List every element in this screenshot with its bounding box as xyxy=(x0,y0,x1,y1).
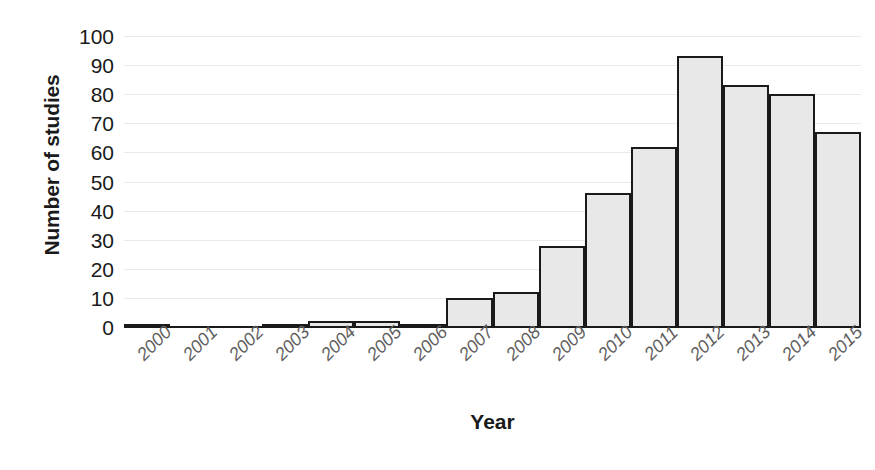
bar[interactable] xyxy=(446,298,492,327)
bar-slot xyxy=(446,36,492,327)
bar[interactable] xyxy=(631,147,677,327)
bar-slot xyxy=(769,36,815,327)
x-slot: 2003 xyxy=(262,330,308,400)
bar-slot xyxy=(631,36,677,327)
y-tick-label: 20 xyxy=(58,258,114,279)
x-slot: 2014 xyxy=(769,330,815,400)
x-slot: 2010 xyxy=(585,330,631,400)
x-slot: 2005 xyxy=(354,330,400,400)
y-tick-label: 80 xyxy=(58,84,114,105)
bar-slot xyxy=(723,36,769,327)
y-tick-label: 70 xyxy=(58,113,114,134)
y-tick-label: 60 xyxy=(58,142,114,163)
y-tick-label: 40 xyxy=(58,200,114,221)
y-tick-label: 100 xyxy=(58,26,114,47)
x-slot: 2002 xyxy=(216,330,262,400)
x-axis-tick-labels: 2000200120022003200420052006200720082009… xyxy=(124,330,861,400)
bar-slot xyxy=(262,36,308,327)
bar[interactable] xyxy=(723,85,769,327)
bar-slot xyxy=(400,36,446,327)
bar-slot xyxy=(815,36,861,327)
bar[interactable] xyxy=(539,246,585,327)
x-slot: 2013 xyxy=(723,330,769,400)
bar-slot xyxy=(216,36,262,327)
x-slot: 2008 xyxy=(493,330,539,400)
x-slot: 2015 xyxy=(815,330,861,400)
bar-series xyxy=(124,36,861,327)
bar[interactable] xyxy=(815,132,861,327)
bar[interactable] xyxy=(493,292,539,327)
bar[interactable] xyxy=(585,193,631,327)
bar-slot xyxy=(539,36,585,327)
x-tick-label: 2015 xyxy=(824,322,867,365)
x-slot: 2006 xyxy=(400,330,446,400)
bar-slot xyxy=(124,36,170,327)
x-slot: 2004 xyxy=(308,330,354,400)
bar-slot xyxy=(308,36,354,327)
y-tick-label: 90 xyxy=(58,55,114,76)
y-tick-label: 0 xyxy=(58,317,114,338)
y-tick-label: 10 xyxy=(58,287,114,308)
x-axis-title: Year xyxy=(124,410,861,434)
x-slot: 2007 xyxy=(446,330,492,400)
x-slot: 2000 xyxy=(124,330,170,400)
y-tick-label: 50 xyxy=(58,171,114,192)
x-slot: 2001 xyxy=(170,330,216,400)
bar[interactable] xyxy=(677,56,723,327)
plot-area xyxy=(124,36,861,327)
x-slot: 2009 xyxy=(539,330,585,400)
y-axis-tick-labels: 0102030405060708090100 xyxy=(58,24,114,339)
bar-chart: Number of studies 0102030405060708090100… xyxy=(0,0,875,470)
bar-slot xyxy=(585,36,631,327)
x-axis-line xyxy=(124,326,861,328)
bar-slot xyxy=(170,36,216,327)
bar-slot xyxy=(677,36,723,327)
bar[interactable] xyxy=(769,94,815,327)
bar-slot xyxy=(493,36,539,327)
y-tick-label: 30 xyxy=(58,229,114,250)
x-slot: 2012 xyxy=(677,330,723,400)
x-slot: 2011 xyxy=(631,330,677,400)
bar-slot xyxy=(354,36,400,327)
